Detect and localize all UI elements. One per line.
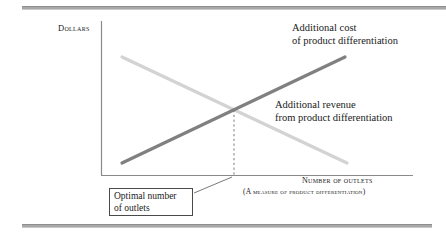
additional-cost-annotation: Additional cost of product differentiati… [292, 22, 398, 48]
optimal-outlets-callout-line2: of outlets [114, 203, 177, 215]
optimal-outlets-callout-line1: Optimal number [114, 191, 177, 203]
additional-revenue-annotation-line1: Additional revenue [275, 99, 393, 112]
optimal-outlets-callout-text: Optimal number of outlets [114, 191, 177, 215]
x-axis-sublabel: (A measure of product differentiation) [243, 187, 365, 196]
additional-revenue-annotation-line2: from product differentiation [275, 112, 393, 125]
callout-leader-line [194, 177, 232, 193]
y-axis-label: Dollars [58, 23, 90, 33]
additional-revenue-annotation: Additional revenue from product differen… [275, 99, 393, 125]
figure-container: Dollars Additional cost of product diffe… [0, 0, 446, 239]
x-axis-label: Number of outlets [302, 176, 373, 186]
additional-cost-annotation-line1: Additional cost [292, 22, 398, 35]
additional-cost-annotation-line2: of product differentiation [292, 35, 398, 48]
